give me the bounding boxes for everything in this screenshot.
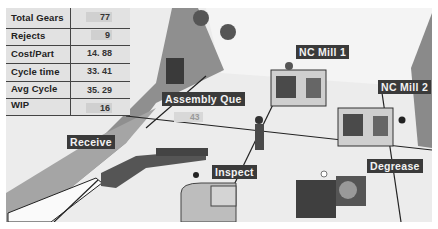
stats-row-cost-per-part: Cost/Part 14. 88 xyxy=(6,46,130,63)
stats-value: 35. 29 xyxy=(87,85,112,95)
station-label-inspect[interactable]: Inspect xyxy=(212,165,257,179)
divider xyxy=(6,115,130,116)
stats-label: Avg Cycle xyxy=(11,83,57,94)
stats-value: 9 xyxy=(91,30,112,40)
stats-label: Cycle time xyxy=(11,66,60,77)
stats-label: Total Gears xyxy=(11,12,64,23)
station-label-degrease[interactable]: Degrease xyxy=(367,159,423,173)
stats-value: 16 xyxy=(86,103,112,113)
station-label-receive[interactable]: Receive xyxy=(67,135,115,149)
stats-value: 14. 88 xyxy=(87,48,112,58)
stats-row-total-gears: Total Gears 77 xyxy=(6,10,130,27)
assembly-que-count: 43 xyxy=(174,112,203,122)
stats-label: WIP xyxy=(11,99,29,110)
factory-simulation-view: Total Gears 77 Rejects 9 Cost/Part 14. 8… xyxy=(6,8,432,222)
stats-row-avg-cycle: Avg Cycle 35. 29 xyxy=(6,81,130,98)
station-label-assembly-que[interactable]: Assembly Que xyxy=(162,92,245,106)
stats-panel: Total Gears 77 Rejects 9 Cost/Part 14. 8… xyxy=(6,8,130,116)
station-label-nc-mill-1[interactable]: NC Mill 1 xyxy=(296,45,349,59)
stats-value: 77 xyxy=(86,12,112,22)
stats-label: Rejects xyxy=(11,30,46,41)
stats-label: Cost/Part xyxy=(11,48,54,59)
worker-figure xyxy=(255,116,264,150)
stats-value: 33. 41 xyxy=(87,66,112,76)
station-label-nc-mill-2[interactable]: NC Mill 2 xyxy=(378,80,431,94)
stats-row-rejects: Rejects 9 xyxy=(6,28,130,45)
stats-row-wip: WIP 16 xyxy=(6,97,130,114)
stats-row-cycle-time: Cycle time 33. 41 xyxy=(6,64,130,81)
